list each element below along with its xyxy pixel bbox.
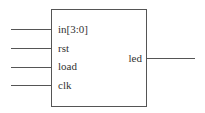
block-diagram: in[3:0] rst load clk led — [0, 0, 205, 113]
port-label-clk: clk — [58, 79, 72, 91]
port-label-in: in[3:0] — [58, 23, 88, 35]
port-label-rst: rst — [58, 42, 69, 54]
port-label-led: led — [129, 52, 143, 64]
port-label-load: load — [58, 60, 77, 72]
